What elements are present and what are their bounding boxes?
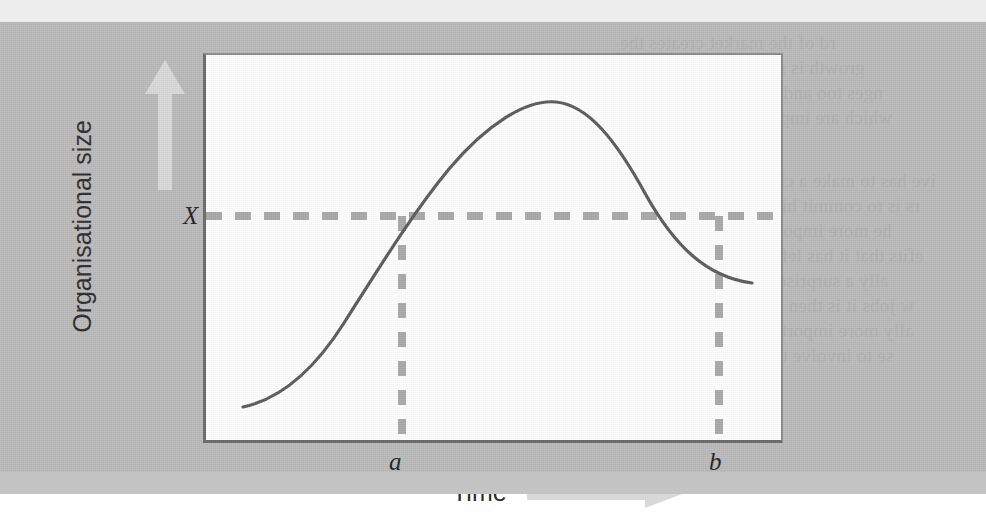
bleed-text-line-1: rd of the market creates the bbox=[620, 30, 836, 55]
growth-curve bbox=[243, 102, 752, 407]
plot-area bbox=[203, 53, 783, 443]
paper-top-strip bbox=[0, 0, 986, 22]
plot-svg bbox=[206, 55, 783, 443]
y-axis-title: Organisational size bbox=[68, 107, 97, 347]
y-tick-label-X: X bbox=[183, 202, 198, 230]
figure-bottom-strip bbox=[0, 472, 986, 494]
figure-grey-panel: rd of the market creates the growth is s… bbox=[0, 22, 986, 472]
y-axis-arrow-icon bbox=[144, 60, 186, 194]
